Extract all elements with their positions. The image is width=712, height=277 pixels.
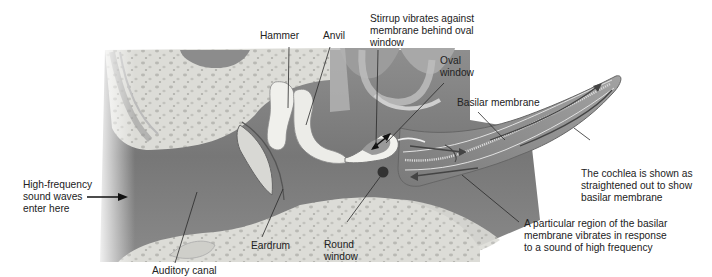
ear-diagram: Hammer Anvil Stirrup vibrates against me…: [0, 0, 712, 277]
label-sound-waves-line3: enter here: [23, 203, 92, 215]
label-round-window: Round window: [324, 239, 358, 263]
label-cochlea-note: The cochlea is shown as straightened out…: [581, 168, 693, 205]
label-region-note-line2: membrane vibrates in response: [524, 230, 667, 242]
label-round-window-line1: Round: [324, 239, 358, 251]
label-region-note-line3: to a sound of high frequency: [524, 242, 667, 254]
label-hammer: Hammer: [260, 30, 299, 42]
label-auditory-canal: Auditory canal: [152, 265, 217, 277]
label-oval-window-line1: Oval: [440, 55, 474, 67]
label-region-note: A particular region of the basilar membr…: [524, 218, 667, 255]
label-region-note-line1: A particular region of the basilar: [524, 218, 667, 230]
label-eardrum: Eardrum: [251, 240, 290, 252]
label-anvil: Anvil: [323, 30, 345, 42]
label-oval-window: Oval window: [440, 55, 474, 79]
label-stirrup-line1: Stirrup vibrates against: [370, 13, 474, 25]
round-window: [378, 167, 389, 178]
label-stirrup: Stirrup vibrates against membrane behind…: [370, 13, 474, 50]
label-cochlea-note-line1: The cochlea is shown as: [581, 168, 693, 180]
label-cochlea-note-line3: basilar membrane: [581, 192, 693, 204]
label-basilar-membrane: Basilar membrane: [457, 97, 540, 109]
label-sound-waves-line2: sound waves: [23, 191, 92, 203]
label-oval-window-line2: window: [440, 67, 474, 79]
label-round-window-line2: window: [324, 251, 358, 263]
label-stirrup-line3: window: [370, 37, 474, 49]
label-cochlea-note-line2: straightened out to show: [581, 180, 693, 192]
label-sound-waves: High-frequency sound waves enter here: [23, 179, 92, 216]
label-sound-waves-line1: High-frequency: [23, 179, 92, 191]
label-stirrup-line2: membrane behind oval: [370, 25, 474, 37]
